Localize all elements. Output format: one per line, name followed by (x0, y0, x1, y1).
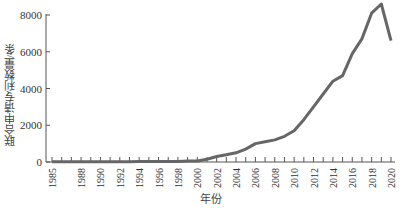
x-tick-label: 1992 (115, 168, 126, 188)
x-tick-label: 2008 (270, 168, 281, 188)
x-tick-label: 1998 (173, 168, 184, 188)
x-tick-label: 2002 (212, 168, 223, 188)
x-tick-label: 1988 (76, 168, 87, 188)
x-tick-label: 1985 (47, 168, 58, 188)
x-tick-label: 2006 (250, 168, 261, 188)
x-tick-label: 2014 (328, 168, 339, 188)
x-tick-label: 2016 (347, 168, 358, 188)
x-tick-label: 2000 (192, 168, 203, 188)
x-tick-label: 2020 (386, 168, 397, 188)
line-chart: 0200040006000800019851988199019921994199… (0, 0, 403, 211)
x-tick-label: 1994 (134, 168, 145, 188)
y-tick-label: 0 (37, 156, 43, 168)
chart-canvas: 0200040006000800019851988199019921994199… (0, 0, 403, 211)
series-line (52, 4, 391, 162)
y-axis-title-text: 联合申请专利数量/条 (2, 44, 18, 146)
y-tick-label: 6000 (20, 46, 43, 58)
x-tick-label: 2018 (367, 168, 378, 188)
y-tick-label: 4000 (20, 83, 43, 95)
x-tick-label: 1990 (95, 168, 106, 188)
x-tick-label: 2010 (289, 168, 300, 188)
x-tick-label: 2004 (231, 168, 242, 188)
y-axis-title: 联合申请专利数量/条 (0, 20, 20, 170)
x-tick-label: 2012 (309, 168, 320, 188)
y-tick-label: 8000 (20, 9, 43, 21)
x-axis-title: 年份 (200, 190, 222, 206)
y-tick-label: 2000 (20, 119, 43, 131)
x-tick-label: 1996 (154, 168, 165, 188)
